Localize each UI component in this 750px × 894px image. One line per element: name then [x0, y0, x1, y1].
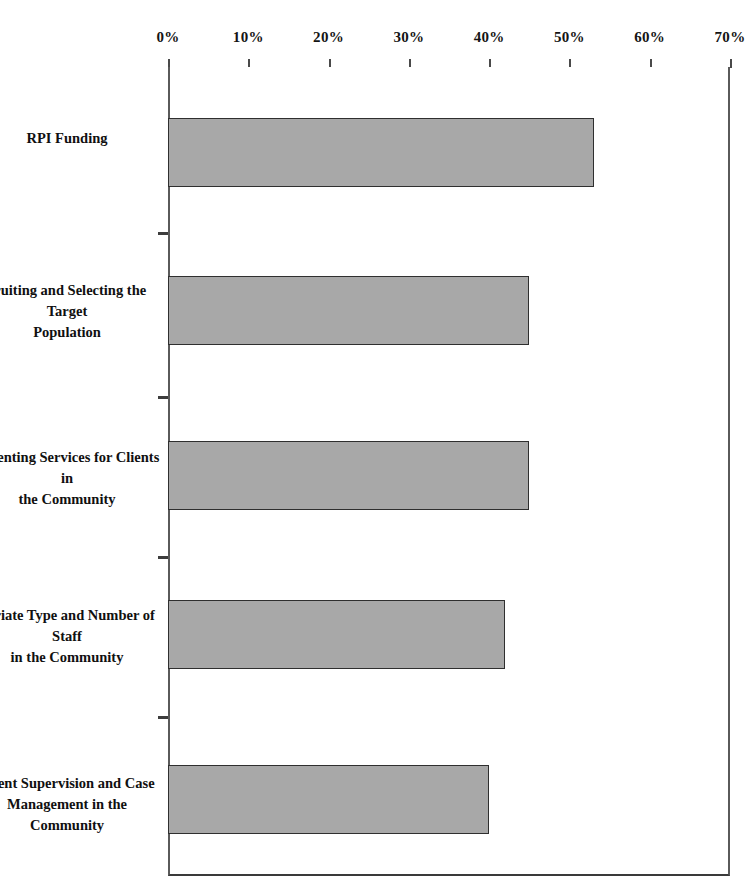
category-label: opriate Type and Number of Staff in the …	[0, 605, 160, 668]
x-axis-tick-label: 70%	[715, 29, 746, 46]
x-axis-tick-label: 20%	[313, 29, 344, 46]
x-axis-tick-mark	[730, 59, 732, 68]
x-axis-tick-label: 10%	[233, 29, 264, 46]
category-axis-tick	[158, 556, 168, 559]
x-axis-tick-label: 60%	[634, 29, 665, 46]
x-axis-tick-label: 50%	[554, 29, 585, 46]
bar-chart: 0%10%20%30%40%50%60%70% RPI Fundingcruit…	[0, 0, 750, 894]
category-label: cruiting and Selecting the Target Popula…	[0, 280, 160, 343]
bar	[168, 441, 529, 510]
category-label: RPI Funding	[0, 128, 160, 149]
x-axis-tick-label: 30%	[393, 29, 424, 46]
x-axis-tick-label: 40%	[474, 29, 505, 46]
category-axis-tick	[158, 396, 168, 399]
bar	[168, 765, 489, 834]
category-axis-tick	[158, 716, 168, 719]
bar	[168, 118, 594, 187]
category-label: Client Supervision and Case Management i…	[0, 773, 160, 836]
x-axis-tick-label: 0%	[156, 29, 179, 46]
category-axis-tick	[158, 232, 168, 235]
bar	[168, 600, 505, 669]
bar	[168, 276, 529, 345]
category-label: lementing Services for Clients in the Co…	[0, 447, 160, 510]
